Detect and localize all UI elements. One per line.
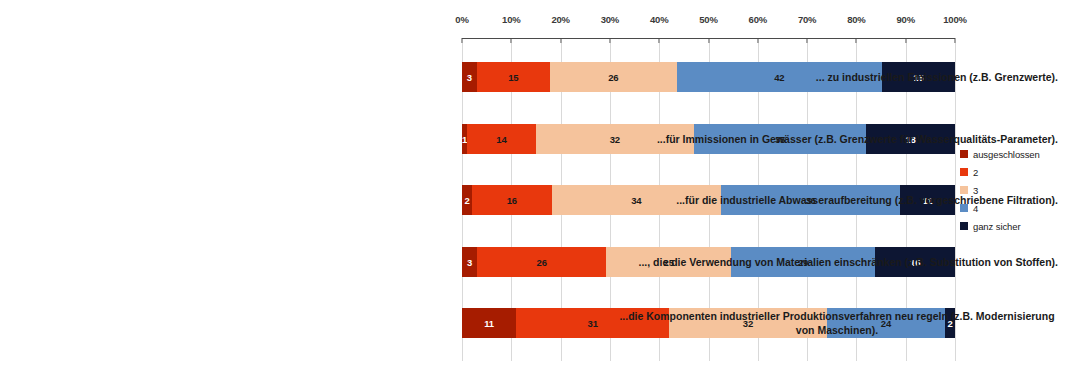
legend-item[interactable]: 3 [960, 181, 1066, 199]
legend-swatch-icon [960, 150, 968, 158]
legend-item[interactable]: ganz sicher [960, 217, 1066, 235]
x-axis-tick-label: 90% [896, 14, 914, 25]
legend-label: ganz sicher [973, 221, 1020, 232]
x-axis-tick-label: 30% [601, 14, 619, 25]
category-label: ... zu industriellen Emissionen (z.B. Gr… [616, 53, 1068, 101]
legend-swatch-icon [960, 186, 968, 194]
legend-label: 4 [973, 203, 978, 214]
bar-segment-value: 26 [537, 257, 547, 268]
x-axis-tick-label: 70% [798, 14, 816, 25]
legend-swatch-icon [960, 204, 968, 212]
x-axis-tick-label: 40% [650, 14, 668, 25]
bar-segment-value: 15 [508, 72, 518, 83]
chart-legend: ausgeschlossen234ganz sicher [960, 145, 1066, 235]
x-axis-tick-label: 100% [943, 14, 967, 25]
bar-segment-value: 3 [467, 72, 472, 83]
x-axis-tick-labels: 0%10%20%30%40%50%60%70%80%90%100% [462, 14, 955, 40]
x-axis-tick-label: 0% [455, 14, 468, 25]
legend-item[interactable]: 2 [960, 163, 1066, 181]
bar-segment-value: 16 [507, 195, 517, 206]
bar-segment-value: 2 [464, 195, 469, 206]
bar-segment: 15 [477, 62, 550, 92]
category-label-text: ...die Komponenten industrieller Produkt… [616, 309, 1058, 337]
legend-swatch-icon [960, 168, 968, 176]
x-axis-tick-label: 20% [551, 14, 569, 25]
legend-item[interactable]: ausgeschlossen [960, 145, 1066, 163]
bar-segment: 26 [477, 247, 606, 277]
bar-segment-value: 3 [467, 257, 472, 268]
legend-item[interactable]: 4 [960, 199, 1066, 217]
bar-segment: 3 [462, 62, 477, 92]
x-axis-tick-label: 80% [847, 14, 865, 25]
bar-segment: 11 [462, 308, 516, 338]
legend-label: 3 [973, 185, 978, 196]
category-label-text: ..., die die Verwendung von Materialien … [639, 255, 1058, 269]
bar-segment-value: 14 [496, 134, 506, 145]
x-axis-tick-label: 10% [502, 14, 520, 25]
category-label: ..., die die Verwendung von Materialien … [616, 238, 1068, 286]
x-axis-tick-label: 60% [749, 14, 767, 25]
bar-segment: 16 [472, 185, 552, 215]
bar-segment: 14 [467, 124, 536, 154]
stacked-bar-chart: 0%10%20%30%40%50%60%70%80%90%100% 315264… [0, 0, 1068, 374]
category-label-text: ... zu industriellen Emissionen (z.B. Gr… [816, 70, 1058, 84]
x-axis-tick-label: 50% [699, 14, 717, 25]
legend-label: 2 [973, 167, 978, 178]
legend-swatch-icon [960, 222, 968, 230]
bar-segment: 2 [462, 185, 472, 215]
bar-segment: 3 [462, 247, 477, 277]
legend-label: ausgeschlossen [973, 149, 1040, 160]
category-label-text: ...für Immissionen in Gewässer (z.B. Gre… [657, 132, 1058, 146]
bar-segment-value: 31 [588, 318, 598, 329]
bar-segment-value: 11 [484, 318, 494, 329]
category-label: ...die Komponenten industrieller Produkt… [616, 299, 1068, 347]
